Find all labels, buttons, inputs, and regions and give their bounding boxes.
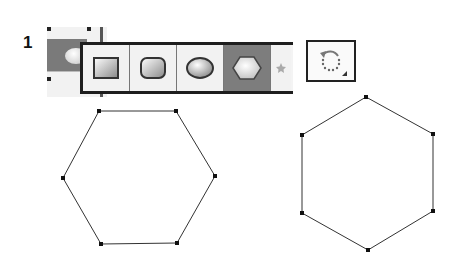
- drawing-canvas[interactable]: [0, 0, 466, 267]
- anchor-point-icon[interactable]: [300, 211, 304, 215]
- anchor-point-icon[interactable]: [61, 176, 65, 180]
- anchor-point-icon[interactable]: [174, 109, 178, 113]
- anchor-point-icon[interactable]: [431, 209, 435, 213]
- anchor-point-icon[interactable]: [366, 248, 370, 252]
- hexagon-pointy-top[interactable]: [300, 95, 435, 252]
- anchor-point-icon[interactable]: [99, 242, 103, 246]
- anchor-point-icon[interactable]: [431, 132, 435, 136]
- anchor-point-icon[interactable]: [213, 174, 217, 178]
- anchor-point-icon[interactable]: [175, 241, 179, 245]
- anchor-point-icon[interactable]: [300, 133, 304, 137]
- hexagon-flat-top[interactable]: [61, 109, 217, 246]
- anchor-point-icon[interactable]: [97, 109, 101, 113]
- anchor-point-icon[interactable]: [364, 95, 368, 99]
